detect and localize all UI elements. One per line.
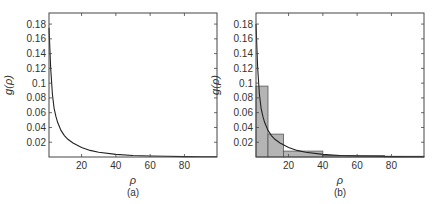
axes-frame [49, 13, 217, 157]
histogram-bar [268, 134, 283, 157]
y-tick-label: 0.06 [234, 107, 254, 118]
y-tick-label: 0.1 [239, 78, 253, 89]
y-tick-label: 0.14 [234, 48, 254, 59]
x-tick-label: 80 [179, 160, 191, 171]
x-axis-label: ρ [336, 174, 343, 186]
y-tick-label: 0.16 [27, 33, 47, 44]
curve-line [49, 28, 217, 157]
histogram-bar [256, 86, 268, 157]
y-tick-label: 0.1 [32, 78, 46, 89]
y-tick-label: 0.02 [27, 137, 47, 148]
y-tick-label: 0.04 [234, 122, 254, 133]
y-tick-label: 0.12 [27, 63, 47, 74]
y-tick-label: 0.18 [27, 19, 47, 30]
y-axis-label: g(ρ) [2, 75, 14, 95]
y-tick-label: 0.06 [27, 107, 47, 118]
panel-a: 0.020.040.060.080.10.120.140.160.1820406… [2, 13, 217, 198]
y-tick-label: 0.08 [234, 92, 254, 103]
x-tick-label: 20 [283, 160, 295, 171]
y-axis-label: g(ρ) [209, 75, 221, 95]
y-tick-label: 0.14 [27, 48, 47, 59]
x-tick-label: 40 [110, 160, 122, 171]
y-tick-label: 0.04 [27, 122, 47, 133]
x-tick-label: 60 [352, 160, 364, 171]
y-tick-label: 0.02 [234, 137, 254, 148]
x-tick-label: 80 [386, 160, 398, 171]
panel-label: (a) [127, 187, 139, 198]
panel-b: 0.020.040.060.080.10.120.140.160.1820406… [209, 13, 424, 198]
x-tick-label: 20 [76, 160, 88, 171]
y-tick-label: 0.12 [234, 63, 254, 74]
y-tick-label: 0.08 [27, 92, 47, 103]
y-tick-label: 0.16 [234, 33, 254, 44]
x-tick-label: 60 [145, 160, 157, 171]
x-tick-label: 40 [317, 160, 329, 171]
figure: 0.020.040.060.080.10.120.140.160.1820406… [0, 0, 439, 204]
chart-figure: 0.020.040.060.080.10.120.140.160.1820406… [0, 0, 439, 204]
panel-label: (b) [334, 187, 346, 198]
y-tick-label: 0.18 [234, 19, 254, 30]
x-axis-label: ρ [129, 174, 136, 186]
